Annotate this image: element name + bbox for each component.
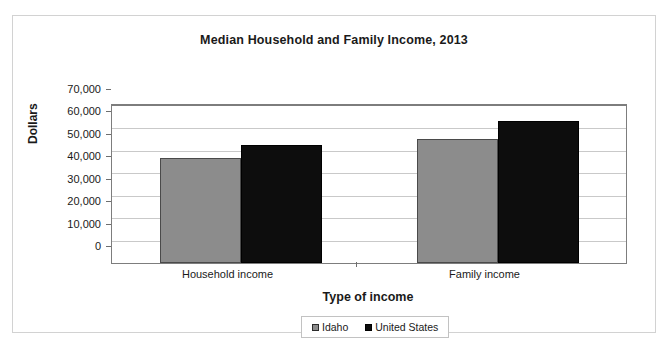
legend-item-us[interactable]: United States [365, 321, 438, 333]
y-axis-tick-label: 60,000 [43, 106, 101, 117]
y-axis-tick-label: 10,000 [43, 219, 101, 230]
bars-layer [112, 106, 626, 263]
legend-swatch-icon [365, 324, 372, 331]
x-axis-tick-mark [356, 262, 357, 267]
y-axis-tick-label: 20,000 [43, 196, 101, 207]
plot-area [111, 104, 627, 264]
bar-idaho-1 [417, 139, 498, 263]
y-axis-tick-label: 50,000 [43, 129, 101, 140]
legend-item-label: United States [375, 321, 438, 333]
y-axis-tick-mark [106, 111, 111, 112]
legend-item-label: Idaho [322, 321, 348, 333]
y-axis-tick-mark [106, 201, 111, 202]
y-axis-tick-mark [106, 89, 111, 90]
legend-item-idaho[interactable]: Idaho [312, 321, 348, 333]
y-axis-tick-mark [106, 134, 111, 135]
y-axis-tick-labels: 70,00060,00050,00040,00030,00020,00010,0… [43, 89, 101, 261]
bar-us-1 [498, 121, 579, 263]
bar-idaho-0 [160, 158, 241, 263]
x-axis-title: Type of income [111, 290, 625, 304]
chart-frame: Median Household and Family Income, 2013… [12, 15, 656, 333]
y-axis-tick-label: 40,000 [43, 151, 101, 162]
legend-swatch-icon [312, 324, 319, 331]
bar-us-0 [241, 145, 322, 263]
y-axis-tick-label: 0 [43, 241, 101, 252]
x-axis-category-label: Household income [99, 268, 356, 280]
y-axis-tick-mark [106, 246, 111, 247]
y-axis-title: Dollars [26, 103, 40, 144]
y-axis-tick-label: 70,000 [43, 84, 101, 95]
y-axis-tick-mark [106, 156, 111, 157]
x-axis-category-label: Family income [356, 268, 613, 280]
y-axis-tick-label: 30,000 [43, 174, 101, 185]
chart-title: Median Household and Family Income, 2013 [13, 33, 655, 47]
y-axis-tick-mark [106, 224, 111, 225]
chart-legend: IdahoUnited States [301, 316, 449, 338]
y-axis-tick-mark [106, 179, 111, 180]
